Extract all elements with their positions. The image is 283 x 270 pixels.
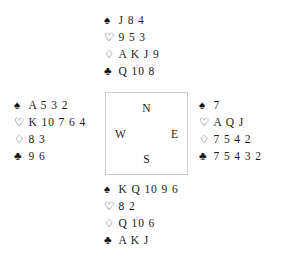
hand-south-diamonds: Q 10 6	[116, 215, 155, 232]
hand-east-hearts: A Q J	[211, 114, 244, 131]
hand-north-hearts-row: ♡ 9 5 3	[104, 29, 160, 46]
club-icon: ♣	[199, 148, 211, 165]
hand-west-diamonds-row: ♢ 8 3	[14, 131, 86, 148]
compass-box: N W E S	[105, 92, 188, 175]
hand-south-diamonds-row: ♢ Q 10 6	[104, 215, 179, 232]
diamond-icon: ♢	[104, 46, 116, 63]
hand-east-spades-row: ♠ 7	[199, 97, 262, 114]
hand-north-hearts: 9 5 3	[116, 29, 146, 46]
hand-south-spades: K Q 10 9 6	[116, 181, 179, 198]
hand-west-spades: A 5 3 2	[26, 97, 68, 114]
hand-north-clubs-row: ♣ Q 10 8	[104, 63, 160, 80]
hand-south-hearts-row: ♡ 8 2	[104, 198, 179, 215]
diamond-icon: ♢	[199, 131, 211, 148]
hand-east-clubs: 7 5 4 3 2	[211, 148, 262, 165]
hand-east: ♠ 7 ♡ A Q J ♢ 7 5 4 2 ♣ 7 5 4 3 2	[199, 97, 262, 165]
heart-icon: ♡	[104, 198, 116, 215]
hand-north-diamonds-row: ♢ A K J 9	[104, 46, 160, 63]
hand-east-diamonds-row: ♢ 7 5 4 2	[199, 131, 262, 148]
hand-east-hearts-row: ♡ A Q J	[199, 114, 262, 131]
hand-north-spades: J 8 4	[116, 12, 145, 29]
spade-icon: ♠	[104, 12, 116, 29]
diamond-icon: ♢	[104, 215, 116, 232]
hand-north-spades-row: ♠ J 8 4	[104, 12, 160, 29]
hand-east-spades: 7	[211, 97, 220, 114]
heart-icon: ♡	[14, 114, 26, 131]
hand-south-hearts: 8 2	[116, 198, 136, 215]
hand-west-diamonds: 8 3	[26, 131, 46, 148]
heart-icon: ♡	[104, 29, 116, 46]
hand-east-diamonds: 7 5 4 2	[211, 131, 251, 148]
spade-icon: ♠	[199, 97, 211, 114]
hand-south-spades-row: ♠ K Q 10 9 6	[104, 181, 179, 198]
hand-west: ♠ A 5 3 2 ♡ K 10 7 6 4 ♢ 8 3 ♣ 9 6	[14, 97, 86, 165]
hand-west-spades-row: ♠ A 5 3 2	[14, 97, 86, 114]
hand-south: ♠ K Q 10 9 6 ♡ 8 2 ♢ Q 10 6 ♣ A K J	[104, 181, 179, 249]
hand-north: ♠ J 8 4 ♡ 9 5 3 ♢ A K J 9 ♣ Q 10 8	[104, 12, 160, 80]
club-icon: ♣	[104, 63, 116, 80]
hand-west-clubs: 9 6	[26, 148, 46, 165]
club-icon: ♣	[14, 148, 26, 165]
hand-east-clubs-row: ♣ 7 5 4 3 2	[199, 148, 262, 165]
hand-west-hearts: K 10 7 6 4	[26, 114, 86, 131]
compass-label-north: N	[106, 102, 187, 114]
compass-label-east: E	[171, 128, 178, 140]
hand-south-clubs-row: ♣ A K J	[104, 232, 179, 249]
hand-north-diamonds: A K J 9	[116, 46, 160, 63]
spade-icon: ♠	[104, 181, 116, 198]
spade-icon: ♠	[14, 97, 26, 114]
hand-west-hearts-row: ♡ K 10 7 6 4	[14, 114, 86, 131]
compass-label-west: W	[115, 128, 126, 140]
hand-north-clubs: Q 10 8	[116, 63, 155, 80]
compass-label-south: S	[106, 153, 187, 165]
diamond-icon: ♢	[14, 131, 26, 148]
club-icon: ♣	[104, 232, 116, 249]
hand-south-clubs: A K J	[116, 232, 149, 249]
hand-west-clubs-row: ♣ 9 6	[14, 148, 86, 165]
heart-icon: ♡	[199, 114, 211, 131]
